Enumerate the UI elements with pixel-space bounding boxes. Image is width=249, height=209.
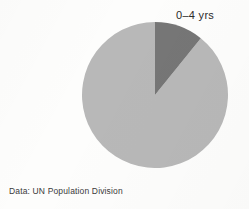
pie-chart-plot-area <box>82 22 228 168</box>
pie-slice-label-0-4-yrs: 0–4 yrs <box>176 8 214 22</box>
source-caption: Data: UN Population Division <box>9 185 123 197</box>
pie-chart-svg <box>82 22 228 168</box>
pie-chart-figure: 0–4 yrs Data: UN Population Division <box>0 0 249 209</box>
